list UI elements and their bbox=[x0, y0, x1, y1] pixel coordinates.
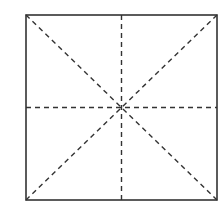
grid-diagram bbox=[0, 0, 219, 213]
